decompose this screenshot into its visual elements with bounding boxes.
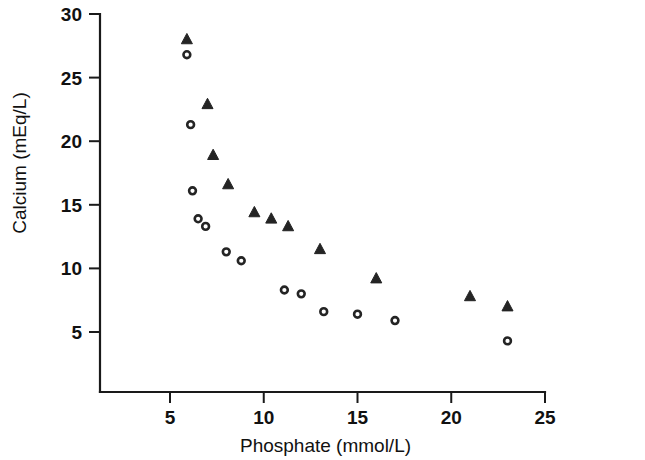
x-tick-label: 10 — [253, 407, 274, 428]
data-point-triangle — [223, 178, 234, 188]
data-point-triangle — [202, 98, 213, 108]
data-point-circle — [238, 257, 245, 264]
x-tick-label: 5 — [165, 407, 176, 428]
data-point-triangle — [283, 220, 294, 230]
x-tick-label: 25 — [534, 407, 556, 428]
x-tick-label: 15 — [347, 407, 369, 428]
y-tick-label: 5 — [71, 322, 82, 343]
data-point-circle — [504, 338, 511, 345]
data-point-circle — [320, 308, 327, 315]
data-point-circle — [189, 187, 196, 194]
data-point-triangle — [181, 33, 192, 43]
data-point-triangle — [502, 301, 513, 311]
y-tick-label: 30 — [61, 4, 82, 25]
axis-tick-labels: 51015202530510152025 — [61, 4, 556, 428]
data-point-triangle — [266, 213, 277, 223]
plot-canvas: 51015202530510152025 Phosphate (mmol/L)C… — [0, 0, 645, 460]
data-point-circle — [281, 287, 288, 294]
data-point-triangle — [249, 206, 260, 216]
data-point-triangle — [371, 273, 382, 283]
data-point-triangle — [464, 290, 475, 300]
axes — [100, 14, 545, 392]
data-point-triangle — [314, 243, 325, 253]
x-axis-title: Phosphate (mmol/L) — [240, 435, 411, 456]
data-point-circle — [195, 215, 202, 222]
data-point-circle — [392, 317, 399, 324]
data-point-circle — [223, 248, 230, 255]
y-tick-label: 25 — [61, 68, 83, 89]
axis-ticks — [89, 14, 545, 403]
data-point-circle — [298, 290, 305, 297]
y-axis-title: Calcium (mEq/L) — [9, 92, 30, 233]
scatter-plot-figure: 51015202530510152025 Phosphate (mmol/L)C… — [0, 0, 645, 460]
data-point-circle — [183, 51, 190, 58]
data-point-circle — [354, 311, 361, 318]
y-tick-label: 15 — [61, 195, 83, 216]
data-point-triangle — [208, 149, 219, 159]
data-point-circle — [187, 121, 194, 128]
x-tick-label: 20 — [441, 407, 462, 428]
y-tick-label: 10 — [61, 258, 82, 279]
data-points — [181, 33, 513, 344]
data-point-circle — [202, 223, 209, 230]
y-tick-label: 20 — [61, 131, 82, 152]
